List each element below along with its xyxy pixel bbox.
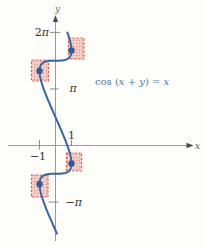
implicit-curve-figure: xy−112ππ−πcos (x + y) = x — [0, 0, 205, 246]
y-axis-arrowhead-icon — [53, 15, 58, 22]
x-tick-label: 1 — [68, 129, 75, 142]
x-tick-label: −1 — [30, 150, 46, 163]
solution-point — [36, 181, 42, 187]
x-axis-label: x — [195, 141, 200, 151]
x-axis-arrowhead-icon — [187, 143, 194, 149]
solution-point — [68, 47, 74, 53]
solution-point — [68, 160, 74, 166]
curve-plot: xy−112ππ−πcos (x + y) = x — [0, 0, 205, 246]
solution-point — [36, 68, 42, 74]
y-axis-label: y — [54, 4, 61, 14]
y-tick-label: π — [69, 82, 78, 95]
y-tick-label: −π — [66, 196, 83, 209]
y-tick-label: 2π — [35, 26, 50, 39]
equation-label: cos (x + y) = x — [95, 76, 170, 87]
